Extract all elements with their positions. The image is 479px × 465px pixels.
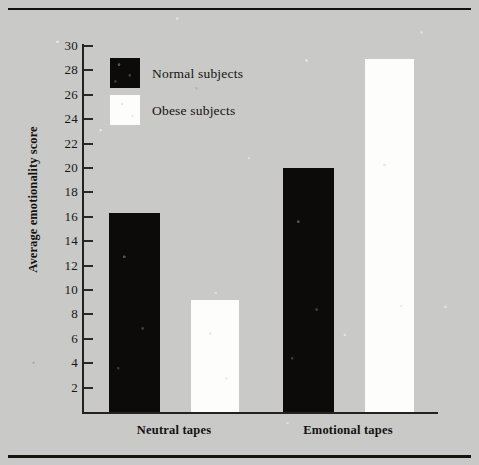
y-tick-mark	[84, 216, 93, 218]
y-tick-label: 4	[52, 356, 78, 369]
y-axis-line	[82, 44, 84, 414]
y-tick-label: 26	[52, 88, 78, 101]
y-tick-mark	[84, 387, 93, 389]
y-tick-label: 24	[52, 112, 78, 125]
y-tick-label: 8	[52, 307, 78, 320]
y-tick-mark	[84, 313, 93, 315]
y-tick-label: 2	[52, 381, 78, 394]
bar-obese-subjects-emotional-tapes	[365, 59, 414, 412]
y-tick-label: 22	[52, 137, 78, 150]
y-tick-mark	[84, 143, 93, 145]
y-tick-label: 10	[52, 283, 78, 296]
y-axis-label: Average emotionality score	[26, 105, 41, 295]
bar-normal-subjects-emotional-tapes	[283, 168, 334, 412]
bar-normal-subjects-neutral-tapes	[109, 213, 160, 412]
y-tick-mark	[84, 167, 93, 169]
legend-label-obese-subjects: Obese subjects	[152, 103, 235, 119]
legend-swatch-obese-subjects	[110, 95, 140, 125]
x-axis-label-emotional-tapes: Emotional tapes	[268, 423, 428, 438]
y-tick-mark	[84, 289, 93, 291]
y-tick-mark	[84, 240, 93, 242]
bar-obese-subjects-neutral-tapes	[191, 300, 239, 412]
y-tick-mark	[84, 94, 93, 96]
y-tick-mark	[84, 45, 93, 47]
x-axis-label-neutral-tapes: Neutral tapes	[94, 423, 254, 438]
y-tick-label: 6	[52, 332, 78, 345]
y-tick-mark	[84, 118, 93, 120]
y-tick-label: 20	[52, 161, 78, 174]
y-tick-mark	[84, 69, 93, 71]
y-tick-label: 14	[52, 234, 78, 247]
legend-swatch-normal-subjects	[110, 58, 140, 88]
y-tick-mark	[84, 191, 93, 193]
y-tick-label: 28	[52, 63, 78, 76]
y-tick-mark	[84, 362, 93, 364]
x-axis-line	[82, 412, 438, 414]
y-tick-label: 18	[52, 185, 78, 198]
bar-chart: Average emotionality score 2468101214161…	[0, 0, 479, 465]
y-tick-label: 30	[52, 39, 78, 52]
legend-label-normal-subjects: Normal subjects	[152, 66, 243, 82]
y-tick-mark	[84, 338, 93, 340]
y-tick-label: 12	[52, 259, 78, 272]
y-tick-mark	[84, 265, 93, 267]
y-tick-label: 16	[52, 210, 78, 223]
